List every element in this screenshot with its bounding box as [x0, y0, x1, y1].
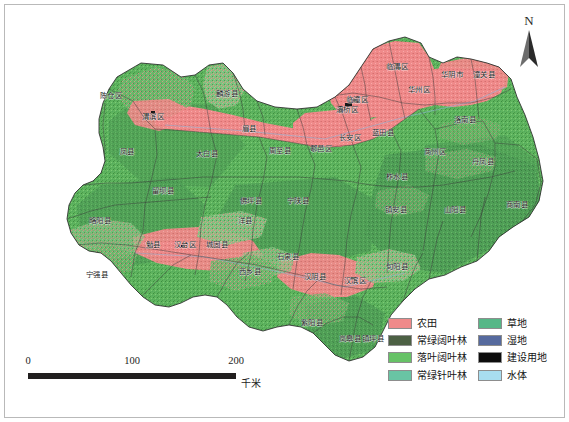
legend-label: 常绿阔叶林 — [417, 335, 467, 346]
legend-label: 水体 — [507, 370, 527, 381]
legend-item[interactable]: 湿地 — [478, 333, 558, 347]
scale-tick-0: 0 — [25, 355, 30, 366]
scale-tick-100: 100 — [124, 355, 140, 366]
legend-label: 建设用地 — [507, 352, 547, 363]
scale-bar-ticks: 0 100 200 — [28, 355, 288, 369]
legend-item[interactable]: 建设用地 — [478, 351, 558, 365]
legend-label: 湿地 — [507, 335, 527, 346]
legend-column: 草地湿地建设用地水体 — [478, 316, 558, 412]
legend-item[interactable]: 常绿针叶林 — [388, 368, 468, 382]
legend-label: 常绿针叶林 — [417, 370, 467, 381]
scale-bar-line — [28, 373, 236, 379]
legend-item[interactable]: 农田 — [388, 316, 468, 330]
legend-swatch — [478, 318, 502, 329]
legend-label: 农田 — [417, 318, 437, 329]
legend-swatch — [388, 370, 412, 381]
scale-tick-200: 200 — [228, 355, 244, 366]
legend-swatch — [478, 352, 502, 363]
legend-swatch — [388, 335, 412, 346]
legend-label: 落叶阔叶林 — [417, 352, 467, 363]
legend-item[interactable]: 水体 — [478, 368, 558, 382]
legend-item[interactable]: 常绿阔叶林 — [388, 333, 468, 347]
legend-label: 草地 — [507, 318, 527, 329]
legend-swatch — [478, 370, 502, 381]
north-arrow: N — [508, 14, 550, 76]
legend-item[interactable]: 落叶阔叶林 — [388, 351, 468, 365]
legend-swatch — [478, 335, 502, 346]
scale-bar-unit: 千米 — [241, 375, 261, 390]
legend-swatch — [388, 352, 412, 363]
legend-item[interactable]: 草地 — [478, 316, 558, 330]
legend-column: 农田常绿阔叶林落叶阔叶林常绿针叶林 — [388, 316, 468, 412]
scale-bar: 0 100 200 千米 — [28, 355, 288, 393]
north-arrow-icon — [508, 27, 550, 71]
legend-swatch — [388, 318, 412, 329]
map-figure: 陈仓区渭滨区凤县太白县麟游县眉县周至县鄠邑区长安区灞桥区临潼区临渭区华州区华阴市… — [0, 0, 569, 422]
legend: 农田常绿阔叶林落叶阔叶林常绿针叶林草地湿地建设用地水体 — [388, 316, 558, 412]
north-arrow-label: N — [508, 14, 550, 27]
